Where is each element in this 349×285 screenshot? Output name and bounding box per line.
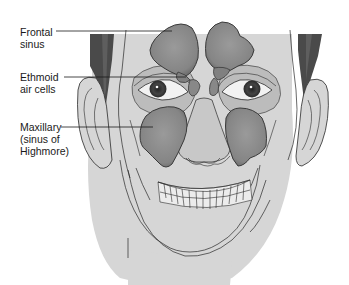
frontal-sinus-label: Frontal sinus [20,26,53,50]
right-ear [296,79,328,166]
maxillary-sinus-label: Maxillary (sinus of Highmore) [20,121,69,157]
ethmoid-air-cells-label: Ethmoid air cells [20,71,59,95]
